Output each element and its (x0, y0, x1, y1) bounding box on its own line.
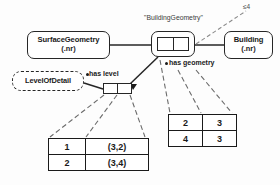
table-row: 1 (3,2) (49, 139, 149, 155)
table-cell-key: 2 (49, 155, 86, 171)
relationship-has-level-icon[interactable] (103, 83, 132, 94)
minitable-cell (104, 84, 118, 93)
leader-geom-right (196, 70, 232, 113)
table-cell-value: (3,4) (86, 155, 149, 171)
minitable-cell (158, 38, 174, 50)
relationship-building-geometry[interactable] (151, 31, 195, 57)
table-row: 2 3 (169, 115, 237, 131)
label-cardinality-constraint: ≤4 (243, 3, 250, 10)
er-diagram-canvas: SurfaceGeometry (.nr) Building (.nr) Lev… (0, 0, 280, 185)
minitable-cell (174, 38, 189, 50)
table-cell-value: 2 (169, 115, 203, 131)
label-has-level: has level (89, 70, 119, 77)
leader-lod-left (50, 95, 104, 137)
minitable-cell (118, 84, 131, 93)
leader-lod-middle (86, 95, 117, 137)
table-cell-value: (3,2) (86, 139, 149, 155)
table-row: 2 (3,4) (49, 155, 149, 171)
table-row: 4 3 (169, 131, 237, 147)
leader-lod-right (130, 95, 145, 137)
table-level-of-detail-instances: 1 (3,2) 2 (3,4) (48, 138, 149, 171)
relationship-marker-icon (165, 62, 168, 65)
table-cell-value: 3 (203, 131, 237, 147)
table-cell-key: 1 (49, 139, 86, 155)
table-cell-value: 3 (203, 115, 237, 131)
leader-geom-middle (178, 70, 201, 113)
entity-surface-geometry-attribute: (.nr) (61, 45, 75, 54)
edge-levelofdetail-to-haslevel (84, 83, 103, 89)
table-geometry-instances: 2 3 4 3 (168, 114, 237, 147)
table-cell-value: 4 (169, 131, 203, 147)
leader-geom-left (160, 60, 170, 113)
label-building-geometry: "BuildingGeometry" (144, 14, 203, 21)
label-has-geometry: has geometry (169, 59, 215, 66)
entity-level-of-detail-name: LevelOfDetail (25, 77, 71, 86)
entity-level-of-detail[interactable]: LevelOfDetail (12, 71, 84, 91)
relationship-building-geometry-table-icon (157, 37, 189, 51)
entity-building[interactable]: Building (.nr) (224, 31, 273, 59)
edge-buildinggeometry-to-haslevel (130, 57, 158, 84)
entity-surface-geometry[interactable]: SurfaceGeometry (.nr) (27, 31, 110, 59)
entity-building-attribute: (.nr) (241, 45, 255, 54)
